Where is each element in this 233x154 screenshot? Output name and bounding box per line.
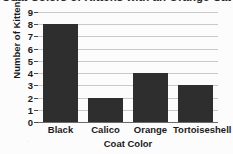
x-tick-label: Tortoiseshell [173,124,218,135]
y-tick-mark [34,122,38,123]
y-tick-label: 2 [20,93,33,102]
bars-group [38,12,218,122]
y-tick-mark [34,85,38,86]
y-tick-label: 9 [20,8,33,17]
y-tick-mark [34,73,38,74]
y-tick-mark [34,110,38,111]
y-tick-mark [34,61,38,62]
y-tick-mark [34,49,38,50]
x-tick-label: Orange [128,124,173,135]
y-axis-tick-labels: 9876543210 [20,12,33,122]
y-tick-mark [34,12,38,13]
bar [88,98,123,122]
y-tick-label: 4 [20,69,33,78]
y-tick-label: 5 [20,56,33,65]
bar-chart: Coat Colors of Kittens with an Orange Ca… [0,0,233,154]
x-tick-label: Calico [83,124,128,135]
bar [178,85,213,122]
axis-baseline [38,122,218,123]
bar [43,24,78,122]
x-axis-title: Coat Color [38,138,218,149]
y-tick-label: 3 [20,81,33,90]
y-tick-label: 7 [20,32,33,41]
y-tick-label: 1 [20,105,33,114]
plot-area [38,12,218,122]
y-tick-mark [34,36,38,37]
x-tick-label: Black [38,124,83,135]
y-tick-mark [34,98,38,99]
y-tick-label: 6 [20,44,33,53]
y-tick-label: 8 [20,20,33,29]
bar [133,73,168,122]
x-axis-tick-labels: BlackCalicoOrangeTortoiseshell [30,124,226,136]
y-tick-mark [34,24,38,25]
chart-title: Coat Colors of Kittens with an Orange Ca… [0,0,233,4]
